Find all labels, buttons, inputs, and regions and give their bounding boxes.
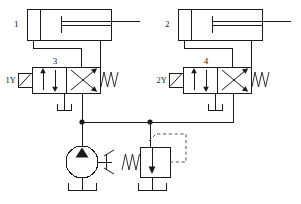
cylinder-1-group: 1 — [14, 9, 140, 40]
valve-4-crossed-flow-symbol — [222, 68, 248, 92]
main-pressure-line-group — [79, 119, 233, 124]
valve-3-spring-actuator — [101, 72, 118, 87]
valve-4-pressure-port-line — [150, 93, 233, 122]
valve-3-label: 3 — [53, 56, 58, 66]
relief-valve-pilot-line — [156, 134, 186, 162]
valve-4-lower-ports — [150, 93, 233, 122]
valve-3-solenoid-diagonal — [20, 74, 31, 86]
relief-valve-box — [140, 147, 170, 177]
valve-3-box-left — [32, 67, 66, 93]
cylinder-2-label: 2 — [165, 19, 170, 29]
valve-4-spring-actuator — [252, 72, 269, 87]
valve-4-arrow-up-head — [191, 68, 197, 73]
pump-direction-arrow-line-b — [104, 168, 114, 174]
valve-3-crossed-flow-symbol — [71, 68, 97, 92]
valve-4-solenoid-label: 2Y — [157, 75, 167, 85]
pump-direction-arrow-line — [104, 150, 114, 156]
valve-4-box-left — [183, 67, 217, 93]
valve-3-spring-zigzag — [101, 72, 118, 87]
cylinder-2-port-lines — [184, 40, 251, 67]
relief-valve-arrow-head — [149, 167, 156, 175]
valve-3-arrow-down-head — [52, 87, 58, 92]
relief-valve-group — [122, 122, 186, 190]
cylinder-1-port-lines — [33, 40, 100, 67]
valve-3-solenoid-label: 1Y — [6, 75, 16, 85]
valve-4-parallel-flow-symbol — [191, 68, 209, 92]
valve-4-spring-zigzag — [252, 72, 269, 87]
valve-3-solenoid-actuator: 1Y — [6, 73, 32, 87]
relief-valve-spring-zigzag — [122, 154, 140, 170]
valve-3-parallel-flow-symbol — [40, 68, 58, 92]
valve-4-arrow-down-head — [203, 87, 209, 92]
circuit-schematic-canvas: 1 3 — [0, 0, 301, 204]
valve-3-lower-ports — [57, 93, 82, 122]
valve-4-solenoid-diagonal — [171, 74, 182, 86]
valve-3-group: 3 1Y — [6, 56, 118, 122]
cylinder-1-label: 1 — [14, 19, 19, 29]
pump-group — [66, 122, 114, 190]
valve-4-solenoid-actuator: 2Y — [157, 73, 183, 87]
hydraulic-circuit-diagram: 1 3 — [0, 0, 301, 204]
valve-3-arrow-up-head — [40, 68, 46, 73]
pump-flow-triangle — [76, 148, 89, 158]
cylinder-2-group: 2 — [165, 9, 291, 40]
valve-4-label: 4 — [204, 56, 209, 66]
